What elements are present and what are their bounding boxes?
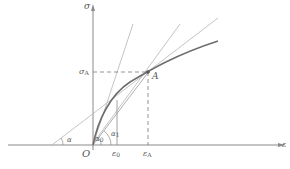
tangent-line-at-A [97,24,180,138]
sigma-A-label: σA [79,68,89,76]
alpha-label: α [67,137,72,144]
alpha-arc-icon [61,138,63,145]
stress-strain-diagram [0,0,290,169]
secant-line-alpha [52,18,218,145]
alpha0-label: α0 [95,136,104,143]
y-axis-label: σ [84,2,90,11]
point-A-label: A [152,72,159,81]
epsilon-A-label: εA [143,150,152,158]
y-axis-arrow-icon [91,4,95,11]
alpha1-arc-icon [104,131,111,145]
point-A-marker [146,70,150,74]
origin-label: O [82,149,90,159]
epsilon-0-label: ε0 [112,150,120,158]
x-axis-label: ε [282,141,286,149]
alpha1-label: α1 [111,131,120,138]
